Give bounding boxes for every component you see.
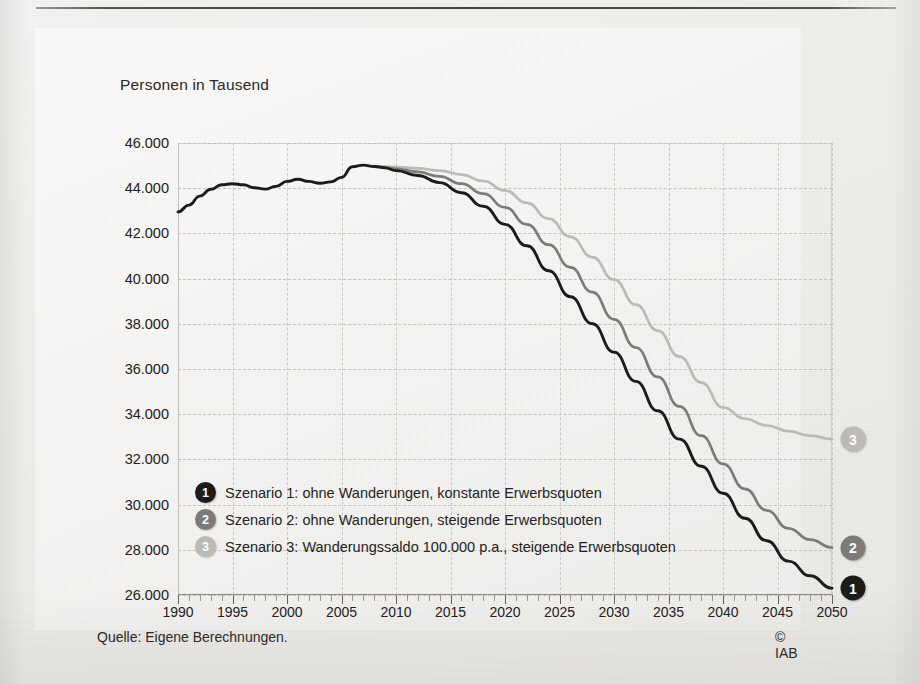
legend-badge-1: 1 — [195, 482, 216, 503]
x-minor-tick — [418, 595, 419, 601]
x-tick-label: 2025 — [544, 604, 575, 620]
x-minor-tick — [799, 595, 800, 601]
x-minor-tick — [756, 595, 757, 601]
y-tick-label: 42.000 — [125, 225, 169, 241]
x-minor-tick — [200, 595, 201, 601]
y-tick-label: 46.000 — [125, 135, 169, 151]
x-tick-label: 2010 — [380, 604, 411, 620]
x-tick-label: 2020 — [489, 604, 520, 620]
y-axis-title: Personen in Tausend — [120, 76, 269, 94]
x-minor-tick — [821, 595, 822, 601]
x-minor-tick — [352, 595, 353, 601]
x-minor-tick — [647, 595, 648, 601]
x-minor-tick — [810, 595, 811, 601]
y-tick-label: 34.000 — [125, 406, 169, 422]
x-minor-tick — [189, 595, 190, 601]
chart-figure: Personen in Tausend 26.00028.00030.00032… — [35, 28, 801, 630]
x-minor-tick — [363, 595, 364, 601]
x-minor-tick — [211, 595, 212, 601]
x-minor-tick — [298, 595, 299, 601]
legend-badge-2: 2 — [195, 509, 216, 530]
x-major-tick — [778, 595, 779, 604]
x-minor-tick — [592, 595, 593, 601]
x-minor-tick — [265, 595, 266, 601]
x-tick-label: 2030 — [598, 604, 629, 620]
x-major-tick — [396, 595, 397, 604]
source-note: Quelle: Eigene Berechnungen. — [97, 629, 288, 645]
x-minor-tick — [429, 595, 430, 601]
x-major-tick — [723, 595, 724, 604]
x-minor-tick — [222, 595, 223, 601]
x-tick-label: 2005 — [326, 604, 357, 620]
x-tick-label: 2045 — [762, 604, 793, 620]
x-minor-tick — [712, 595, 713, 601]
x-tick-label: 2050 — [816, 604, 847, 620]
x-minor-tick — [494, 595, 495, 601]
end-marker-2: 2 — [841, 535, 866, 560]
x-minor-tick — [483, 595, 484, 601]
legend-badge-3: 3 — [195, 536, 216, 557]
copyright-note: © IAB — [775, 629, 801, 661]
legend-item-3: 3Szenario 3: Wanderungssaldo 100.000 p.a… — [195, 533, 676, 560]
y-tick-label: 30.000 — [125, 497, 169, 513]
x-minor-tick — [581, 595, 582, 601]
x-minor-tick — [603, 595, 604, 601]
y-tick-label: 40.000 — [125, 271, 169, 287]
x-minor-tick — [788, 595, 789, 601]
x-minor-tick — [254, 595, 255, 601]
x-minor-tick — [734, 595, 735, 601]
x-minor-tick — [309, 595, 310, 601]
x-minor-tick — [407, 595, 408, 601]
x-tick-label: 1995 — [217, 604, 248, 620]
x-tick-label: 2040 — [707, 604, 738, 620]
x-minor-tick — [767, 595, 768, 601]
x-minor-tick — [570, 595, 571, 601]
x-tick-label: 2000 — [271, 604, 302, 620]
x-major-tick — [505, 595, 506, 604]
x-minor-tick — [625, 595, 626, 601]
x-minor-tick — [701, 595, 702, 601]
v-gridline — [832, 143, 833, 595]
end-marker-3: 3 — [841, 427, 866, 452]
end-marker-1: 1 — [841, 576, 866, 601]
x-minor-tick — [331, 595, 332, 601]
x-tick-label: 2035 — [653, 604, 684, 620]
x-minor-tick — [527, 595, 528, 601]
x-minor-tick — [636, 595, 637, 601]
x-major-tick — [832, 595, 833, 604]
legend-item-2: 2Szenario 2: ohne Wanderungen, steigende… — [195, 506, 676, 533]
y-tick-label: 38.000 — [125, 316, 169, 332]
y-tick-label: 44.000 — [125, 180, 169, 196]
x-major-tick — [178, 595, 179, 604]
x-minor-tick — [374, 595, 375, 601]
y-tick-label: 28.000 — [125, 542, 169, 558]
x-minor-tick — [320, 595, 321, 601]
x-minor-tick — [276, 595, 277, 601]
x-minor-tick — [690, 595, 691, 601]
y-tick-label: 36.000 — [125, 361, 169, 377]
y-tick-label: 32.000 — [125, 451, 169, 467]
x-major-tick — [342, 595, 343, 604]
x-minor-tick — [243, 595, 244, 601]
chart-legend: 1Szenario 1: ohne Wanderungen, konstante… — [195, 479, 676, 560]
x-minor-tick — [679, 595, 680, 601]
y-tick-label: 26.000 — [125, 587, 169, 603]
x-minor-tick — [516, 595, 517, 601]
x-minor-tick — [538, 595, 539, 601]
x-minor-tick — [385, 595, 386, 601]
x-major-tick — [233, 595, 234, 604]
x-tick-label: 1990 — [162, 604, 193, 620]
x-major-tick — [560, 595, 561, 604]
x-major-tick — [669, 595, 670, 604]
x-minor-tick — [745, 595, 746, 601]
legend-label: Szenario 2: ohne Wanderungen, steigende … — [225, 512, 602, 528]
x-minor-tick — [440, 595, 441, 601]
x-minor-tick — [658, 595, 659, 601]
x-major-tick — [287, 595, 288, 604]
legend-item-1: 1Szenario 1: ohne Wanderungen, konstante… — [195, 479, 676, 506]
x-minor-tick — [472, 595, 473, 601]
legend-label: Szenario 1: ohne Wanderungen, konstante … — [225, 485, 602, 501]
x-major-tick — [451, 595, 452, 604]
x-tick-label: 2015 — [435, 604, 466, 620]
x-minor-tick — [461, 595, 462, 601]
